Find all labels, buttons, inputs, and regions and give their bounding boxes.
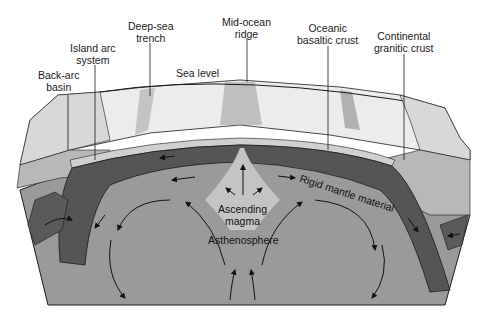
label-mid-ocean-ridge: Mid-ocean ridge (222, 16, 271, 40)
label-back-arc-basin: Back-arc basin (38, 69, 79, 93)
label-sea-level: Sea level (176, 67, 219, 79)
label-oceanic-basaltic-crust: Oceanic basaltic crust (297, 22, 358, 46)
label-ascending-magma: Ascending magma (218, 203, 267, 227)
label-island-arc-system: Island arc system (70, 42, 116, 66)
ridge-texture (220, 82, 262, 125)
label-deep-sea-trench: Deep-sea trench (128, 20, 174, 44)
label-continental-granitic-crust: Continental granitic crust (374, 30, 434, 54)
label-asthenosphere: Asthenosphere (208, 234, 279, 246)
